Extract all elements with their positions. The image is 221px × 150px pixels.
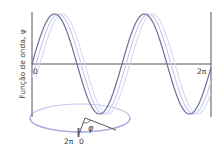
x-tick-0: 0: [33, 67, 38, 76]
x-tick-2pi: 2π: [197, 67, 207, 76]
circle-label-0: 0: [79, 137, 84, 146]
wave-phase-diagram: φ 2π 0 0 2π Função de onda, ψ: [0, 0, 221, 150]
diagram-canvas: φ 2π 0 0 2π Função de onda, ψ: [0, 0, 221, 150]
y-axis-label: Função de onda, ψ: [18, 29, 27, 98]
phase-label: φ: [88, 124, 94, 133]
circle-label-2pi: 2π: [64, 137, 74, 146]
zero-marker: [78, 128, 80, 137]
